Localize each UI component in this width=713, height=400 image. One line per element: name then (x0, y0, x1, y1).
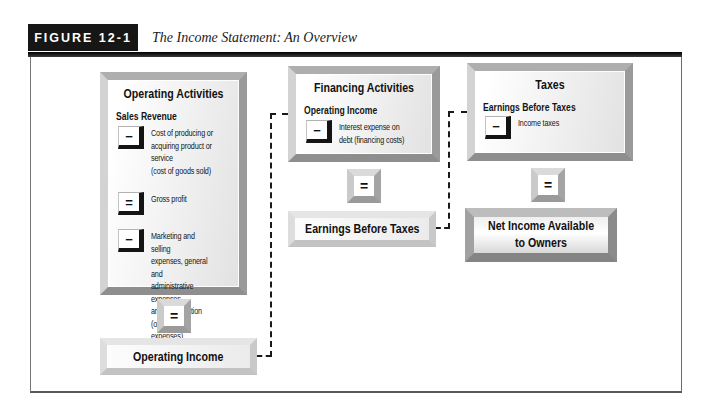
figure-page: FIGURE 12-1 The Income Statement: An Ove… (0, 0, 713, 400)
equals-button-taxes: = (531, 168, 565, 202)
connector-ebt-vertical (448, 111, 450, 229)
financing-activities-title: Financing Activities (310, 81, 419, 95)
net-income-result-label: Net Income Available to Owners (484, 218, 598, 252)
minus-operator-icon: − (485, 116, 511, 139)
operating-income-label: Operating Income (304, 104, 427, 116)
equals-button-financing: = (347, 169, 381, 203)
cogs-text: Cost of producing or acquiring product o… (151, 126, 215, 177)
earnings-before-taxes-result-label: Earnings Before Taxes (305, 222, 419, 236)
sales-revenue-label: Sales Revenue (116, 110, 239, 122)
earnings-before-taxes-result-box: Earnings Before Taxes (288, 211, 436, 247)
minus-operator-icon: − (118, 126, 144, 149)
net-income-result-box: Net Income Available to Owners (465, 208, 617, 262)
earnings-before-taxes-label: Earnings Before Taxes (483, 101, 606, 113)
minus-operator-icon: − (306, 120, 332, 143)
connector-ebt-horizontal-top (448, 111, 467, 113)
minus-operator-icon: − (118, 229, 144, 252)
taxes-box: Taxes Earnings Before Taxes − Income tax… (467, 63, 633, 161)
interest-expense-step: − Interest expense on debt (financing co… (306, 120, 428, 146)
operating-activities-box: Operating Activities Sales Revenue − Cos… (100, 72, 247, 295)
taxes-title: Taxes (490, 78, 611, 92)
gross-profit-step: = Gross profit (118, 192, 235, 215)
gross-profit-text: Gross profit (151, 192, 215, 206)
cogs-step: − Cost of producing or acquiring product… (118, 126, 235, 177)
connector-oi-horizontal-bottom (257, 355, 271, 357)
operating-activities-title: Operating Activities (121, 87, 226, 101)
financing-activities-box: Financing Activities Operating Income − … (288, 66, 440, 162)
connector-oi-vertical (270, 113, 272, 357)
connector-oi-horizontal-top (270, 113, 288, 115)
operating-income-result-label: Operating Income (133, 350, 223, 364)
income-taxes-text: Income taxes (518, 116, 596, 130)
operating-income-result-box: Operating Income (100, 338, 257, 375)
figure-label: FIGURE 12-1 (28, 24, 138, 51)
figure-caption: The Income Statement: An Overview (152, 30, 357, 46)
interest-expense-text: Interest expense on debt (financing cost… (339, 120, 407, 146)
equals-button-operating: = (157, 299, 191, 333)
equals-operator-icon: = (118, 192, 144, 215)
income-taxes-step: − Income taxes (485, 116, 621, 139)
